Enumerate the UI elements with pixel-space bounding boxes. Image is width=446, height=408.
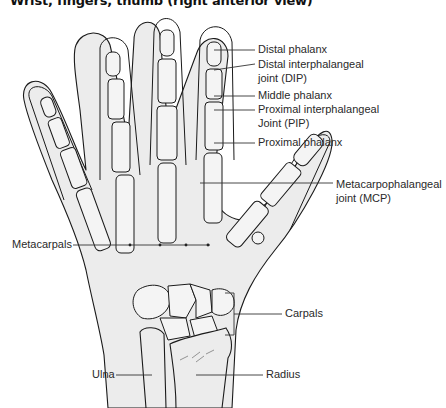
label-middle-phalanx: Middle phalanx <box>258 89 332 102</box>
label-radius: Radius <box>266 368 300 381</box>
label-dip-line1: Distal interphalangeal <box>258 58 364 71</box>
label-dip-line2: joint (DIP) <box>258 72 307 85</box>
label-proximal-phalanx: Proximal phalanx <box>258 136 342 149</box>
label-mcp-line1: Metacarpophalangeal <box>336 178 442 191</box>
label-pip-line2: Joint (PIP) <box>258 117 309 130</box>
label-distal-phalanx: Distal phalanx <box>258 43 327 56</box>
label-carpals: Carpals <box>285 307 323 320</box>
label-metacarpals: Metacarpals <box>12 238 72 251</box>
label-pip-line1: Proximal interphalangeal <box>258 103 379 116</box>
label-ulna: Ulna <box>92 368 115 381</box>
radius-bone <box>170 328 232 408</box>
label-mcp-line2: joint (MCP) <box>336 192 391 205</box>
